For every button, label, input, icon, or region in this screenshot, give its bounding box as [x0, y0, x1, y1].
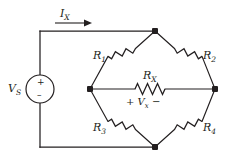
resistor-label-r4: R4 — [203, 122, 216, 133]
node-bottom — [152, 144, 158, 150]
resistor-label-r3: R3 — [93, 122, 106, 133]
resistor-r1-zigzag — [108, 49, 136, 59]
circuit-diagram: IX VS + – R1 R2 R3 R4 RX + Vx − — [0, 0, 228, 160]
resistor-r4-zigzag — [175, 119, 203, 129]
lead-r3-top — [90, 89, 108, 122]
lead-r4-top — [202, 89, 215, 122]
source-plus-sign: + — [37, 78, 45, 87]
lead-r3-bottom — [136, 130, 156, 148]
lead-r1-top — [136, 31, 156, 49]
resistor-label-r1: R1 — [93, 50, 106, 61]
vx-label: V — [138, 96, 145, 107]
resistor-rx-zigzag — [135, 84, 165, 95]
current-label-ix: IX — [60, 8, 70, 19]
vx-minus-sign: − — [152, 96, 160, 107]
current-arrow-head — [84, 20, 92, 27]
resistor-label-rx: RX — [143, 70, 157, 81]
lead-r4-bottom — [155, 130, 175, 148]
node-top — [152, 28, 158, 34]
resistor-label-r2: R2 — [203, 50, 216, 61]
source-label-vs: VS — [8, 83, 21, 94]
resistor-r2-zigzag — [175, 49, 203, 59]
lead-r2-top — [155, 31, 175, 49]
resistor-r3-zigzag — [108, 119, 136, 129]
source-minus-sign: – — [37, 91, 42, 100]
circuit-schematic-svg — [0, 0, 228, 160]
node-left — [87, 86, 93, 92]
node-right — [212, 86, 218, 92]
bridge-voltage-annotation: + Vx − — [126, 97, 160, 107]
